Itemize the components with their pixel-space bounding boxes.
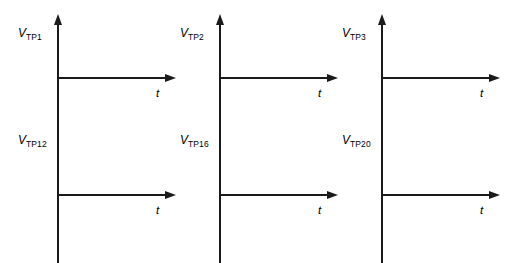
x-axis-label-tp20: t bbox=[480, 205, 483, 217]
y-axis-label-tp20: VTP20 bbox=[342, 134, 371, 149]
y-axis-symbol: V bbox=[342, 133, 350, 147]
x-axis-label-tp3: t bbox=[480, 88, 483, 100]
waveform-figure: VTP1 t VTP2 t VTP3 t VTP12 t VTP16 bbox=[0, 0, 512, 263]
plot-panel-tp16: VTP16 t bbox=[162, 131, 324, 262]
x-axis-label-tp16: t bbox=[318, 205, 321, 217]
x-axis-line bbox=[219, 194, 329, 196]
y-axis-subscript: TP16 bbox=[188, 139, 209, 149]
plot-panel-tp2: VTP2 t bbox=[162, 0, 324, 131]
x-axis-line bbox=[57, 194, 167, 196]
y-axis-subscript: TP20 bbox=[350, 139, 371, 149]
plot-panel-tp1: VTP1 t bbox=[0, 0, 162, 131]
plot-panel-tp12: VTP12 t bbox=[0, 131, 162, 262]
y-axis-subscript: TP1 bbox=[26, 32, 42, 42]
y-axis-symbol: V bbox=[18, 133, 26, 147]
y-axis-label-tp12: VTP12 bbox=[18, 134, 47, 149]
y-axis-label-tp2: VTP2 bbox=[180, 27, 204, 42]
y-axis-subscript: TP3 bbox=[350, 32, 366, 42]
plot-panel-tp3: VTP3 t bbox=[324, 0, 486, 131]
x-axis-line bbox=[57, 77, 167, 79]
y-axis-label-tp1: VTP1 bbox=[18, 27, 42, 42]
y-axis-subscript: TP12 bbox=[26, 139, 47, 149]
x-axis-line bbox=[381, 77, 491, 79]
x-axis-arrow-icon bbox=[489, 191, 500, 199]
y-axis-label-tp3: VTP3 bbox=[342, 27, 366, 42]
x-axis-arrow-icon bbox=[489, 74, 500, 82]
plot-panel-tp20: VTP20 t bbox=[324, 131, 486, 262]
y-axis-symbol: V bbox=[180, 26, 188, 40]
x-axis-label-tp12: t bbox=[156, 205, 159, 217]
x-axis-label-tp1: t bbox=[156, 88, 159, 100]
y-axis-symbol: V bbox=[342, 26, 350, 40]
y-axis-symbol: V bbox=[180, 133, 188, 147]
y-axis-symbol: V bbox=[18, 26, 26, 40]
x-axis-line bbox=[219, 77, 329, 79]
x-axis-label-tp2: t bbox=[318, 88, 321, 100]
y-axis-label-tp16: VTP16 bbox=[180, 134, 209, 149]
y-axis-subscript: TP2 bbox=[188, 32, 204, 42]
x-axis-line bbox=[381, 194, 491, 196]
